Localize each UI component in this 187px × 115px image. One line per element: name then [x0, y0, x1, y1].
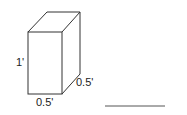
height-label: 1': [16, 57, 24, 68]
prism-front-face: [28, 32, 62, 94]
width-label: 0.5': [36, 97, 53, 108]
prism-top-face: [28, 12, 80, 32]
diagram-canvas: 1' 0.5' 0.5': [0, 0, 187, 115]
depth-label: 0.5': [76, 77, 93, 88]
prism-drawing: [0, 0, 187, 115]
